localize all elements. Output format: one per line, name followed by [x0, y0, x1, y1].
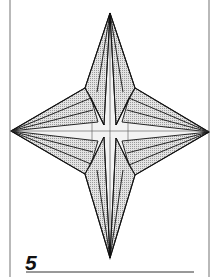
step-number: 5	[25, 252, 37, 273]
origami-star-diagram	[0, 0, 219, 277]
diagram-page: 5	[0, 0, 219, 277]
